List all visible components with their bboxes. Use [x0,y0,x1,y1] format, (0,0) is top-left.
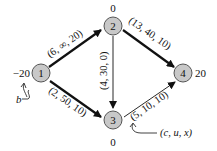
label-edge-2-4: (13, 40, 10) [126,15,173,53]
supply-node-1: −20 [13,67,31,79]
node-4-label: 4 [180,67,186,79]
supply-node-2: 0 [110,2,116,14]
supply-node-4: 20 [195,67,207,79]
node-3: 3 [104,111,122,129]
label-edge-2-3: (4, 30, 0) [98,51,110,90]
label-edge-3-4: (5, 10, 10) [128,88,171,123]
node-3-label: 3 [110,114,116,126]
b-annotation: b [16,93,22,105]
node-2: 2 [104,17,122,35]
node-4: 4 [174,64,192,82]
node-1-label: 1 [38,67,44,79]
node-2-label: 2 [110,20,116,32]
edge-legend-cux: (c, u, x) [160,127,193,139]
supply-node-3: 0 [110,136,116,148]
network-flow-diagram: 1 2 3 4 −20 0 0 20 (6, ∞, 20) (2, 50, 10… [0,0,217,151]
cux-pointer-arrow [132,124,157,133]
node-1: 1 [32,64,50,82]
label-edge-1-3: (2, 50, 10) [46,85,89,120]
